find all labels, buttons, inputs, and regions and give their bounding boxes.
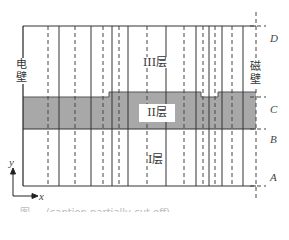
axes-indicator [11, 168, 39, 199]
boundary-d-label: D [270, 33, 278, 44]
layer-i-label: I层 [148, 154, 163, 165]
figure-caption: 图 ... (caption partially cut off) [20, 204, 270, 212]
magnetic-wall-label: 磁壁 [249, 60, 262, 86]
boundary-c-label: C [270, 104, 277, 115]
layer-iii-label: III层 [143, 57, 167, 68]
boundary-b-label: B [270, 134, 277, 145]
x-axis-label: x [39, 191, 44, 202]
y-axis-label: y [9, 157, 14, 168]
electric-wall-label: 电壁 [15, 58, 28, 84]
layer-ii-label: II层 [139, 104, 175, 122]
boundary-a-label: A [270, 172, 277, 183]
